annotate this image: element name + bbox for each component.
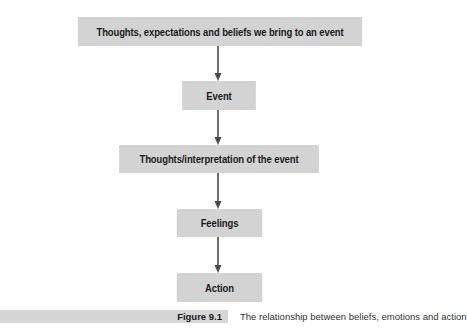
arrow-down-icon: [212, 110, 224, 145]
node-label: Thoughts, expectations and beliefs we br…: [96, 26, 343, 38]
figure-number: Figure 9.1: [177, 310, 222, 323]
node-label: Event: [206, 90, 231, 102]
node-event: Event: [182, 81, 256, 110]
node-action: Action: [177, 273, 263, 302]
arrow-down-icon: [212, 237, 224, 273]
arrow-down-icon: [212, 173, 224, 209]
arrow-down-icon: [212, 46, 224, 81]
node-label: Thoughts/interpretation of the event: [140, 153, 299, 165]
node-beliefs: Thoughts, expectations and beliefs we br…: [78, 17, 362, 46]
node-label: Feelings: [201, 217, 239, 229]
caption-bar: Figure 9.1: [0, 310, 228, 323]
node-interpretation: Thoughts/interpretation of the event: [119, 145, 319, 173]
figure-caption: The relationship between beliefs, emotio…: [240, 310, 467, 323]
node-label: Action: [205, 282, 234, 294]
node-feelings: Feelings: [177, 209, 263, 237]
